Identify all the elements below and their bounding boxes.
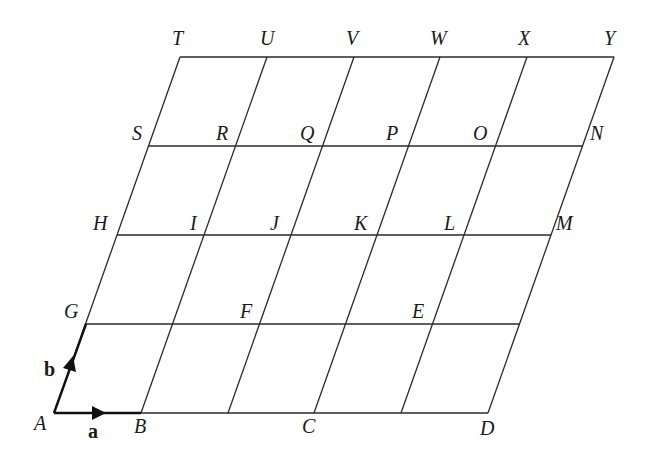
label-H: H — [92, 212, 109, 234]
label-J: J — [270, 212, 280, 234]
point-labels: A B C D G F E H I J K L M S R Q P O N T … — [32, 27, 617, 439]
label-P: P — [385, 122, 398, 144]
label-M: M — [555, 212, 574, 234]
grid-horizontal-lines — [54, 57, 614, 413]
label-vector-b: b — [44, 358, 55, 380]
label-E: E — [411, 300, 424, 322]
label-W: W — [430, 27, 449, 49]
label-U: U — [260, 27, 276, 49]
vector-a — [54, 406, 141, 420]
arrow-a-icon — [92, 406, 106, 420]
label-T: T — [172, 27, 185, 49]
label-D: D — [479, 417, 495, 439]
label-Q: Q — [300, 122, 315, 144]
vector-labels: a b — [44, 358, 98, 442]
label-K: K — [353, 212, 369, 234]
label-vector-a: a — [88, 420, 98, 442]
label-L: L — [443, 212, 455, 234]
label-R: R — [215, 122, 228, 144]
label-N: N — [589, 122, 605, 144]
label-F: F — [239, 300, 253, 322]
label-C: C — [302, 415, 316, 437]
label-A: A — [32, 412, 47, 434]
label-X: X — [517, 27, 531, 49]
label-O: O — [473, 122, 487, 144]
label-S: S — [132, 122, 142, 144]
label-I: I — [189, 212, 198, 234]
vector-grid-diagram: A B C D G F E H I J K L M S R Q P O N T … — [0, 0, 646, 463]
label-B: B — [134, 415, 146, 437]
label-Y: Y — [604, 27, 617, 49]
label-G: G — [64, 300, 79, 322]
label-V: V — [346, 27, 361, 49]
vector-b — [54, 324, 86, 413]
